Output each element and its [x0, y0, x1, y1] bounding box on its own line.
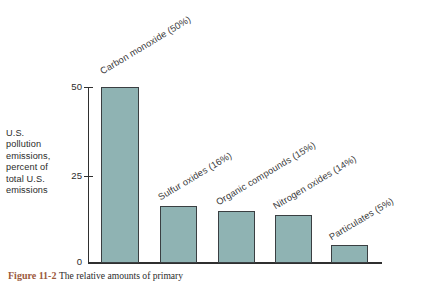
figure-number: Figure 11-2: [8, 270, 56, 281]
bar-particulates: [331, 245, 368, 263]
bar-nitrogen-oxides: [275, 215, 312, 263]
y-axis-tick-label-50: 50: [56, 81, 82, 92]
bar-organic-compounds: [218, 211, 255, 263]
bar-label-organic-compounds: Organic compounds (15%): [214, 140, 317, 207]
y-axis-tick-label-25: 25: [56, 170, 82, 181]
y-axis-label-line: emissions: [6, 185, 66, 196]
y-axis-label-line: emissions,: [6, 151, 66, 162]
y-axis-label-line: U.S.: [6, 128, 66, 139]
figure-caption: Figure 11-2 The relative amounts of prim…: [8, 270, 183, 281]
bar-carbon-monoxide: [101, 87, 139, 263]
y-axis-label-line: pollution: [6, 139, 66, 150]
figure-caption-text: The relative amounts of primary: [59, 270, 183, 281]
y-axis-tick-50: [84, 87, 93, 88]
bar-label-particulates: Particulates (5%): [327, 196, 395, 242]
y-axis-line: [88, 87, 89, 263]
y-axis-label: U.S. pollution emissions, percent of tot…: [6, 128, 66, 196]
y-axis-tick-25: [84, 176, 93, 177]
bar-label-carbon-monoxide: Carbon monoxide (50%): [98, 14, 192, 76]
bar-sulfur-oxides: [160, 206, 197, 263]
y-axis-tick-label-0: 0: [56, 256, 82, 267]
